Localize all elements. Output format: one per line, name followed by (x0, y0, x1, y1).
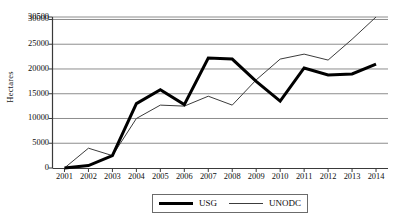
x-tick-labels: 2001200220032004200520062007200820092010… (0, 0, 400, 224)
legend-label-usg: USG (199, 199, 217, 208)
legend-item-unodc: UNODC (229, 199, 301, 208)
chart-legend: USG UNODC (152, 194, 308, 213)
x-tick-label: 2014 (359, 172, 393, 181)
line-chart-figure: Hectares 0500010000150002000025000300003… (0, 0, 400, 224)
legend-item-usg: USG (159, 199, 217, 208)
thin-line-icon (229, 203, 263, 204)
legend-label-unodc: UNODC (269, 199, 301, 208)
thick-line-icon (159, 202, 193, 205)
